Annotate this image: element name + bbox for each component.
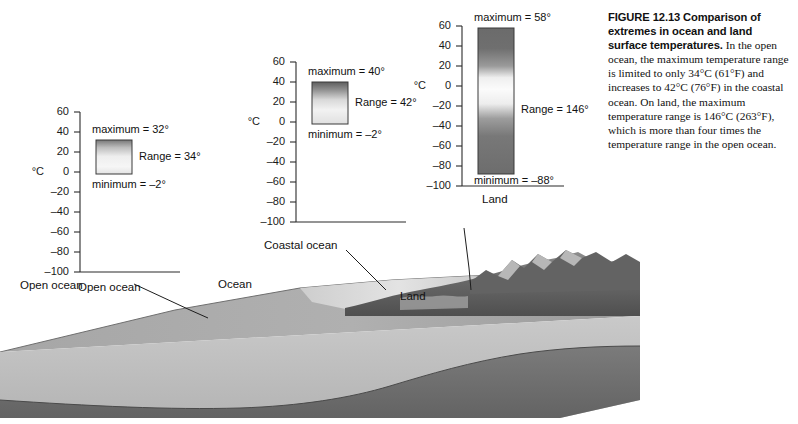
maximum-label: maximum = 32°	[92, 123, 169, 135]
caption-figure-number: FIGURE 12.13	[608, 11, 680, 23]
svg-text:–80: –80	[433, 159, 451, 171]
svg-text:40: 40	[439, 39, 451, 51]
axis-ticks	[74, 112, 80, 272]
svg-text:–20: –20	[433, 99, 451, 111]
svg-text:–40: –40	[267, 155, 285, 167]
panel-land: 60 40 20 0 –20 –40 –60 –80 –100 °C maxim…	[404, 8, 624, 238]
svg-text:20: 20	[273, 95, 285, 107]
axis-ticks	[290, 62, 296, 222]
svg-text:–20: –20	[267, 135, 285, 147]
temperature-bar	[96, 140, 132, 174]
temperature-bar	[312, 82, 348, 124]
svg-text:–100: –100	[427, 179, 451, 191]
svg-text:0: 0	[445, 79, 451, 91]
svg-text:–100: –100	[261, 215, 285, 227]
axis-unit-label: °C	[248, 115, 260, 127]
range-label: Range = 146°	[521, 103, 589, 115]
minimum-label: minimum = –2°	[92, 178, 166, 190]
svg-text:20: 20	[439, 59, 451, 71]
axis-unit-label: °C	[414, 79, 426, 91]
panel-base-label: Open ocean	[78, 281, 141, 293]
svg-text:0: 0	[63, 165, 69, 177]
scene-label-ocean: Ocean	[218, 278, 252, 290]
svg-text:–60: –60	[51, 225, 69, 237]
range-label: Range = 34°	[139, 150, 201, 162]
svg-text:–20: –20	[51, 185, 69, 197]
svg-text:0: 0	[279, 115, 285, 127]
axis-tick-labels: 60 40 20 0 –20 –40 –60 –80 –100	[427, 19, 451, 191]
svg-text:40: 40	[273, 75, 285, 87]
axis-tick-labels: 60 40 20 0 –20 –40 –60 –80 –100	[261, 55, 285, 227]
svg-text:60: 60	[57, 105, 69, 117]
svg-text:–80: –80	[51, 245, 69, 257]
svg-text:–40: –40	[51, 205, 69, 217]
svg-text:20: 20	[57, 145, 69, 157]
caption-body: In the open ocean, the maximum temperatu…	[608, 39, 789, 150]
svg-text:–60: –60	[433, 139, 451, 151]
minimum-label: minimum = –88°	[474, 174, 554, 186]
land-callout	[455, 228, 515, 298]
maximum-label: maximum = 40°	[308, 65, 385, 77]
svg-text:60: 60	[273, 55, 285, 67]
svg-text:60: 60	[439, 19, 451, 31]
panel-base-label: Land	[482, 193, 508, 205]
svg-text:–40: –40	[433, 119, 451, 131]
panel-open-ocean-base-label-wrap: Open ocean	[60, 278, 220, 302]
svg-text:40: 40	[57, 125, 69, 137]
axis-unit-label: °C	[32, 165, 44, 177]
axis-tick-labels: 60 40 20 0 –20 –40 –60 –80 –100	[45, 105, 69, 277]
minimum-label: minimum = –2°	[308, 128, 382, 140]
scene-label-land: Land	[400, 290, 426, 302]
svg-text:–60: –60	[267, 175, 285, 187]
axis-ticks	[456, 26, 462, 186]
svg-text:–80: –80	[267, 195, 285, 207]
svg-text:–100: –100	[45, 265, 69, 277]
temperature-bar	[478, 28, 514, 174]
maximum-label: maximum = 58°	[474, 11, 551, 23]
figure-caption: FIGURE 12.13 Comparison of extremes in o…	[608, 10, 790, 151]
figure-root: Open ocean Ocean Land Coastal ocean	[0, 0, 798, 424]
